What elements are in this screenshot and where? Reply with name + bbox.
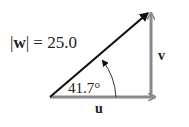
u-label: u — [95, 101, 103, 116]
vector-diagram: |w| = 25.0 41.7° u v — [0, 0, 189, 127]
v-label: v — [158, 48, 165, 63]
angle-label: 41.7° — [68, 80, 100, 96]
angle-arc-icon — [103, 61, 116, 97]
magnitude-label: |w| = 25.0 — [10, 33, 77, 52]
